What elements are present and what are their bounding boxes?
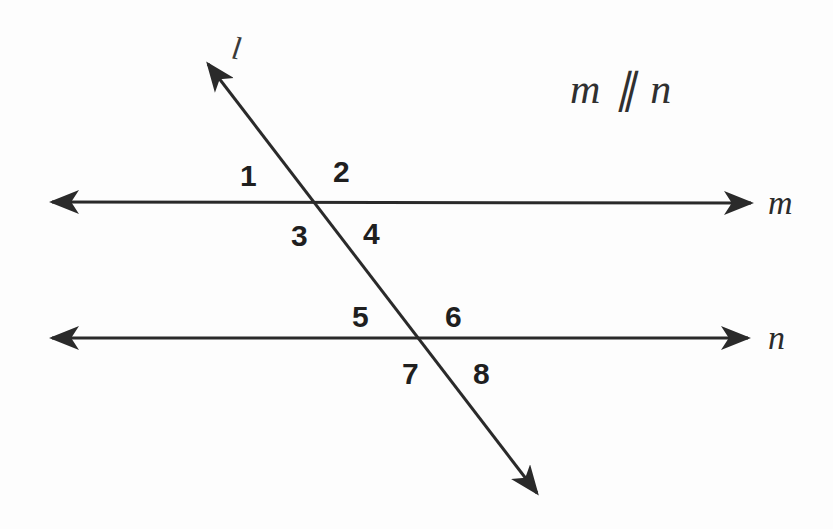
- line-label-m: m: [768, 186, 793, 220]
- line-label-n: n: [768, 321, 785, 355]
- angle-label-1: 1: [240, 161, 257, 191]
- geometry-figure: [0, 0, 833, 529]
- diagram-canvas: m ∥ n l m n 1 2 3 4 5 6 7 8: [0, 0, 833, 529]
- angle-label-2: 2: [333, 157, 350, 187]
- line-l-transversal: [208, 64, 537, 493]
- angle-label-6: 6: [445, 302, 462, 332]
- line-l-group: [208, 64, 537, 493]
- parallel-statement: m ∥ n: [570, 68, 673, 110]
- line-m-group: [52, 202, 751, 203]
- angle-label-7: 7: [402, 359, 419, 389]
- angle-label-4: 4: [363, 219, 380, 249]
- line-m: [52, 202, 751, 203]
- angle-label-8: 8: [473, 359, 490, 389]
- angle-label-3: 3: [291, 221, 308, 251]
- angle-label-5: 5: [352, 302, 369, 332]
